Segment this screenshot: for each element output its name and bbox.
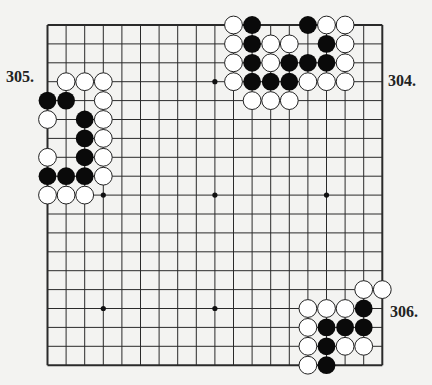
white-stone — [262, 92, 280, 110]
black-stone — [39, 92, 57, 110]
black-stone — [243, 16, 261, 34]
white-stone — [94, 167, 112, 185]
star-point — [101, 306, 106, 311]
white-stone — [243, 92, 261, 110]
white-stone — [299, 300, 317, 318]
white-stone — [39, 111, 57, 129]
white-stone — [94, 148, 112, 166]
black-stone — [318, 319, 336, 337]
star-point — [212, 79, 217, 84]
white-stone — [262, 54, 280, 72]
black-stone — [76, 111, 94, 129]
white-stone — [318, 73, 336, 91]
black-stone — [318, 356, 336, 374]
white-stone — [336, 300, 354, 318]
black-stone — [57, 92, 75, 110]
black-stone — [355, 300, 373, 318]
white-stone — [299, 356, 317, 374]
white-stone — [57, 73, 75, 91]
star-point — [101, 193, 106, 198]
black-stone — [318, 54, 336, 72]
black-stone — [76, 130, 94, 148]
black-stone — [262, 73, 280, 91]
black-stone — [299, 16, 317, 34]
white-stone — [373, 281, 391, 299]
white-stone — [280, 35, 298, 53]
white-stone — [94, 73, 112, 91]
white-stone — [262, 35, 280, 53]
black-stone — [336, 319, 354, 337]
go-board — [0, 0, 432, 385]
white-stone — [94, 111, 112, 129]
white-stone — [336, 35, 354, 53]
white-stone — [94, 130, 112, 148]
black-stone — [57, 167, 75, 185]
white-stone — [225, 73, 243, 91]
black-stone — [318, 35, 336, 53]
white-stone — [355, 337, 373, 355]
problem-label-304: 304. — [388, 72, 416, 90]
white-stone — [299, 73, 317, 91]
white-stone — [57, 186, 75, 204]
white-stone — [225, 16, 243, 34]
black-stone — [299, 54, 317, 72]
white-stone — [225, 35, 243, 53]
white-stone — [318, 16, 336, 34]
white-stone — [336, 337, 354, 355]
problem-label-306: 306. — [390, 303, 418, 321]
black-stone — [280, 54, 298, 72]
black-stone — [39, 167, 57, 185]
white-stone — [225, 54, 243, 72]
problem-label-305: 305. — [6, 68, 34, 86]
star-point — [212, 193, 217, 198]
white-stone — [280, 92, 298, 110]
black-stone — [76, 148, 94, 166]
black-stone — [243, 73, 261, 91]
black-stone — [318, 337, 336, 355]
white-stone — [76, 73, 94, 91]
black-stone — [76, 167, 94, 185]
black-stone — [243, 35, 261, 53]
white-stone — [94, 92, 112, 110]
white-stone — [336, 73, 354, 91]
white-stone — [318, 300, 336, 318]
white-stone — [299, 319, 317, 337]
white-stone — [336, 16, 354, 34]
white-stone — [39, 148, 57, 166]
white-stone — [355, 281, 373, 299]
white-stone — [299, 337, 317, 355]
black-stone — [280, 73, 298, 91]
black-stone — [355, 319, 373, 337]
star-point — [212, 306, 217, 311]
white-stone — [39, 186, 57, 204]
white-stone — [336, 54, 354, 72]
star-point — [324, 193, 329, 198]
white-stone — [76, 186, 94, 204]
black-stone — [243, 54, 261, 72]
